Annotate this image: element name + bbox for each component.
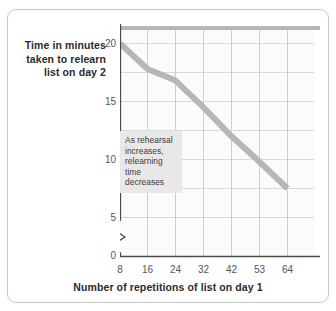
y-tick-label-5: 5 — [90, 213, 116, 223]
x-tick-label-53: 53 — [247, 265, 273, 275]
chart-figure: Time in minutes taken to relearn list on… — [0, 0, 336, 311]
y-axis-title-line-2: taken to relearn — [14, 53, 106, 67]
x-axis-title: Number of repetitions of list on day 1 — [0, 281, 336, 293]
annotation-line-3: relearning time — [125, 156, 177, 177]
y-tick-label-0: 0 — [90, 251, 116, 261]
y-tick-label-10: 10 — [90, 155, 116, 165]
x-tick-label-42: 42 — [219, 265, 245, 275]
x-tick-label-64: 64 — [275, 265, 301, 275]
annotation-line-2: increases, — [125, 146, 177, 157]
x-tick-label-32: 32 — [191, 265, 217, 275]
x-tick-label-8: 8 — [107, 265, 133, 275]
annotation-line-4: decreases — [125, 177, 177, 188]
y-tick-label-15: 15 — [90, 97, 116, 107]
chart-annotation: As rehearsal increases, relearning time … — [120, 131, 182, 193]
y-axis-title-line-3: list on day 2 — [14, 66, 106, 80]
y-tick-label-20: 20 — [90, 39, 116, 49]
x-tick-label-24: 24 — [163, 265, 189, 275]
x-tick-label-16: 16 — [135, 265, 161, 275]
annotation-line-1: As rehearsal — [125, 135, 177, 146]
